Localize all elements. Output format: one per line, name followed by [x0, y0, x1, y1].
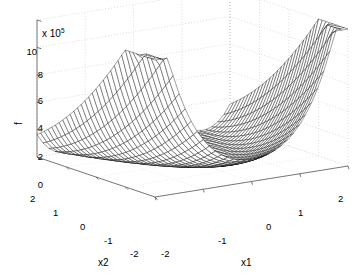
figure-canvas: 1086420210-1-2-2-1012x1x2fx 105 [0, 0, 361, 279]
x2-tick-0: 2 [30, 194, 35, 204]
exponent-power: 5 [61, 27, 65, 34]
x1-tick-3: 1 [298, 208, 303, 218]
z-tick-2: 6 [38, 96, 43, 106]
z-tick-3: 4 [38, 123, 43, 133]
z-tick-5: 0 [38, 180, 43, 190]
x2-tick-4: -2 [130, 249, 138, 259]
x1-axis-title: x1 [241, 258, 252, 268]
x2-tick-3: -1 [104, 236, 112, 246]
z-tick-4: 2 [38, 152, 43, 162]
x1-tick-1: -1 [218, 236, 226, 246]
x2-tick-2: 0 [80, 222, 85, 232]
z-axis-exponent-label: x 105 [42, 26, 65, 39]
exponent-base: x 10 [42, 28, 61, 39]
mesh-surface [37, 19, 348, 167]
x2-axis-title: x2 [98, 258, 109, 268]
surface-plot-svg [0, 0, 361, 279]
x2-tick-1: 1 [53, 208, 58, 218]
z-tick-1: 8 [38, 70, 43, 80]
x1-tick-0: -2 [161, 249, 169, 259]
z-tick-0: 10 [26, 47, 37, 57]
f-axis-title: f [13, 122, 24, 125]
x1-tick-2: 0 [266, 222, 271, 232]
x1-tick-4: 2 [338, 194, 343, 204]
